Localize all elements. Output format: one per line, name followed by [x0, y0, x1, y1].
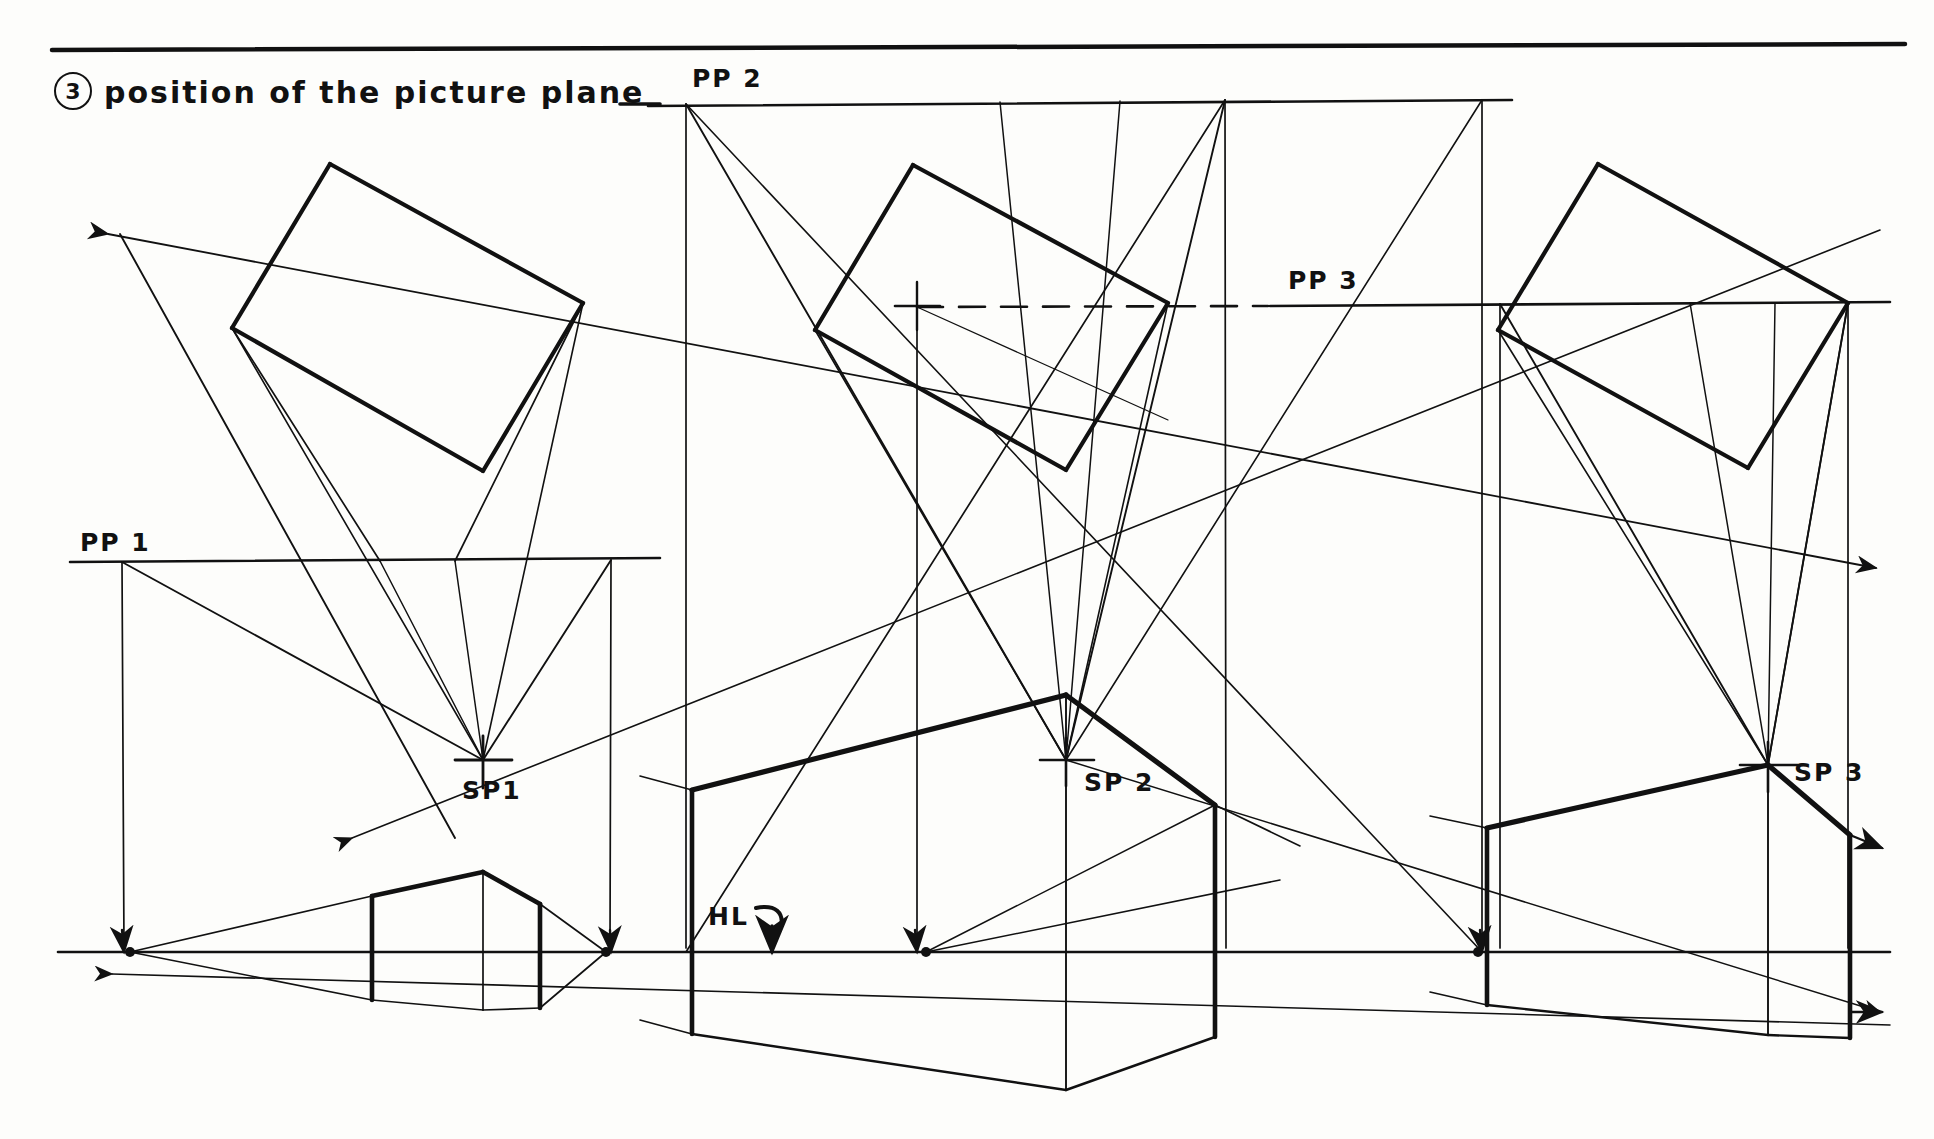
- pp3-sightline-c: [1690, 303, 1768, 765]
- diagonal-lower-long: [112, 974, 1890, 1025]
- diagonal-pp2-left-to-hl-right: [686, 104, 1482, 952]
- diagonal-pp2-right-to-sp2: [1066, 100, 1482, 760]
- station-point-2-label: SP 2: [1084, 768, 1154, 797]
- pp3-sightline-a: [1500, 304, 1768, 765]
- picture-plane-1-line: [70, 558, 660, 562]
- top-rule: [52, 44, 1905, 50]
- drawing-sheet: 3 position of the picture plane PP 2 PP …: [0, 0, 1934, 1139]
- picture-plane-2-line: [648, 100, 1512, 106]
- perspective-house-1: [125, 872, 611, 1010]
- plan1-long-diagonal: [120, 234, 455, 838]
- pp3-sightline-d: [1768, 303, 1775, 765]
- plan3-ray-to-sp3-a: [1498, 330, 1768, 765]
- plan1-ray-to-sp1-a: [483, 303, 583, 760]
- hl-curved-arrow-stroke: [756, 907, 782, 942]
- picture-plane-3-dashed: [917, 306, 1268, 307]
- pp1-sightline-b: [483, 560, 611, 760]
- plan1-ray-right: [455, 303, 583, 561]
- plan2-ray-to-sp2-b: [1066, 303, 1168, 760]
- picture-plane-3-label: PP 3: [1288, 266, 1359, 295]
- plan-rectangle-1: [232, 164, 583, 471]
- picture-plane-3-line: [1270, 302, 1890, 306]
- pp1-vertical-right: [610, 560, 611, 948]
- plan2-ray-to-sp2-a: [815, 330, 1066, 760]
- plan1-ray-left: [232, 328, 380, 561]
- title-step-number: 3: [54, 72, 92, 110]
- perspective-house-3: [1430, 765, 1882, 1038]
- diagonal-pp2-to-hl-left: [686, 100, 1225, 952]
- perspective-house-2: [640, 695, 1300, 1090]
- horizon-line-label: HL: [708, 902, 749, 931]
- pp2-vertical-right: [1225, 100, 1226, 948]
- picture-plane-1-label: PP 1: [80, 528, 151, 557]
- pp1-drop-arrow-right: [610, 930, 611, 952]
- long-diagonal-mid: [352, 230, 1880, 838]
- long-diagonal-upper: [108, 234, 1876, 568]
- picture-plane-2-label: PP 2: [692, 64, 763, 93]
- pp2-sightline-d: [1066, 101, 1120, 760]
- diagonal-sp2-to-lower-right: [1066, 760, 1880, 1012]
- station-point-3-label: SP 3: [1794, 758, 1864, 787]
- perspective-construction-drawing: [0, 0, 1934, 1139]
- pp1-sightline-d: [455, 561, 483, 760]
- pp1-vertical-left: [122, 562, 124, 948]
- station-point-1-label: SP1: [462, 776, 522, 805]
- pp1-sightline-a: [122, 562, 483, 760]
- page-title: position of the picture plane: [104, 75, 644, 110]
- plan-rectangle-3: [1498, 164, 1848, 468]
- plan1-ray-to-sp1-b: [232, 328, 483, 760]
